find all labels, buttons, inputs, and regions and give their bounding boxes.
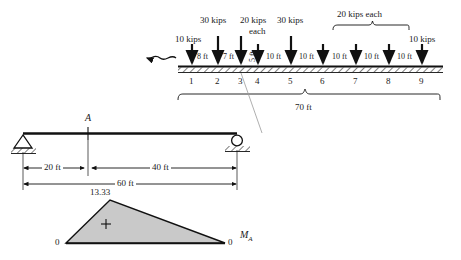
spacing-label-8: 10 ft xyxy=(397,53,412,61)
spacing-label-2: 7 ft xyxy=(223,53,234,61)
span-label-70ft: 70 ft xyxy=(295,103,312,112)
load-label-10kips-right: 10 kips xyxy=(409,35,435,44)
il-right-zero: 0 xyxy=(228,238,233,247)
il-left-zero: 0 xyxy=(55,238,60,247)
figure-vector xyxy=(0,0,461,260)
load-label-20kips-each-group: 20 kips each xyxy=(337,10,382,19)
spacing-label-3: 5 ft xyxy=(249,51,257,62)
node-label-4: 4 xyxy=(255,77,260,86)
node-label-6: 6 xyxy=(320,77,325,86)
spacing-label-1: 8 ft xyxy=(197,53,208,61)
il-quantity-label: MA xyxy=(240,230,253,243)
spacing-label-5: 10 ft xyxy=(299,53,314,61)
node-label-5: 5 xyxy=(288,77,293,86)
dim-label-40ft: 40 ft xyxy=(150,163,171,172)
point-a-label: A xyxy=(85,113,91,123)
node-label-3: 3 xyxy=(238,77,243,86)
load-label-30kips-b: 30 kips xyxy=(277,16,303,25)
il-peak-value: 13.33 xyxy=(90,188,110,197)
node-label-9: 9 xyxy=(419,77,424,86)
load-label-30kips-a: 30 kips xyxy=(200,16,226,25)
spacing-label-6: 10 ft xyxy=(332,53,347,61)
node-label-2: 2 xyxy=(215,77,220,86)
dim-label-20ft: 20 ft xyxy=(42,163,63,172)
load-label-20kips: 20 kips xyxy=(240,16,266,25)
figure-canvas: 10 kips 30 kips 20 kips each 30 kips 20 … xyxy=(0,0,461,260)
node-label-8: 8 xyxy=(386,77,391,86)
spacing-label-4: 10 ft xyxy=(266,53,281,61)
dim-label-60ft: 60 ft xyxy=(115,179,136,188)
node-label-7: 7 xyxy=(353,77,358,86)
load-label-10kips-left: 10 kips xyxy=(175,35,201,44)
spacing-label-7: 10 ft xyxy=(364,53,379,61)
node-label-1: 1 xyxy=(189,77,194,86)
il-quantity-subscript: A xyxy=(248,235,252,243)
load-label-each: each xyxy=(249,27,265,36)
